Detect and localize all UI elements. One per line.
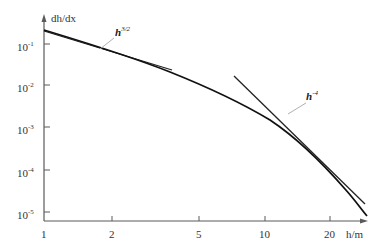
x-tick-label: 10 xyxy=(259,228,271,240)
y-tick-labels: 10-1 10-2 10-3 10-4 10-5 xyxy=(17,40,34,221)
main-curve xyxy=(44,30,367,216)
log-log-chart: dh/dx h/m 10-1 10-2 10-3 10-4 10-5 1 2 5… xyxy=(0,0,388,250)
y-axis-arrow-icon xyxy=(42,14,47,22)
y-tick-label: 10-1 xyxy=(17,40,34,53)
asymptote-h-minus-4 xyxy=(234,76,365,204)
x-tick-label: 20 xyxy=(324,228,336,240)
annotation-h-minus-4: h-4 xyxy=(306,89,318,102)
y-ticks xyxy=(44,44,50,212)
y-tick-label: 10-3 xyxy=(17,123,34,136)
annotation-leader-h-minus-4 xyxy=(288,103,306,114)
annotation-leader-h-3-2 xyxy=(100,38,114,49)
x-tick-labels: 1 2 5 10 20 xyxy=(41,228,336,240)
x-tick-label: 2 xyxy=(109,228,115,240)
y-tick-label: 10-5 xyxy=(17,208,34,221)
y-tick-label: 10-2 xyxy=(17,81,34,94)
x-tick-label: 5 xyxy=(196,228,202,240)
x-tick-label: 1 xyxy=(41,228,47,240)
annotation-h-3-2: h3/2 xyxy=(115,25,131,38)
x-ticks xyxy=(112,216,330,221)
x-axis-arrow-icon xyxy=(360,219,368,224)
x-axis-title: h/m xyxy=(346,228,364,240)
y-tick-label: 10-4 xyxy=(17,166,34,179)
y-axis-title: dh/dx xyxy=(51,12,77,24)
